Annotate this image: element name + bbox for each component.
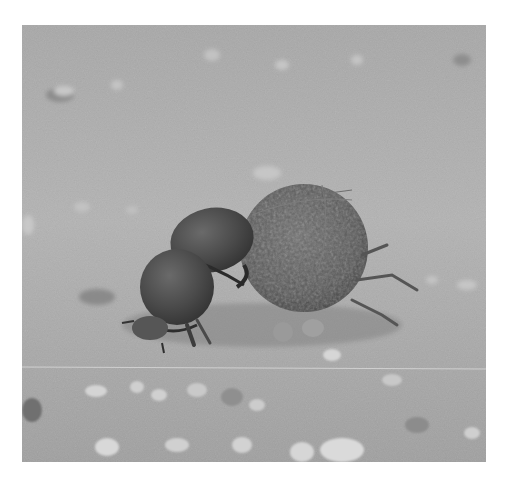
dung-beetle-scene <box>22 25 486 462</box>
dung-ball <box>240 184 368 312</box>
photo <box>22 25 486 462</box>
beetle-head <box>132 316 168 340</box>
